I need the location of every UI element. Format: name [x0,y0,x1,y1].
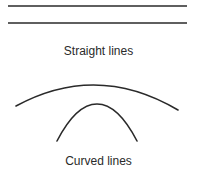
straight-lines-caption: Straight lines [0,44,197,58]
narrow-arch-curve [57,104,137,141]
curved-lines-caption: Curved lines [0,154,197,168]
wide-arc-curve [16,85,178,110]
diagram-graphics [0,0,197,178]
lines-diagram: Straight lines Curved lines [0,0,197,178]
